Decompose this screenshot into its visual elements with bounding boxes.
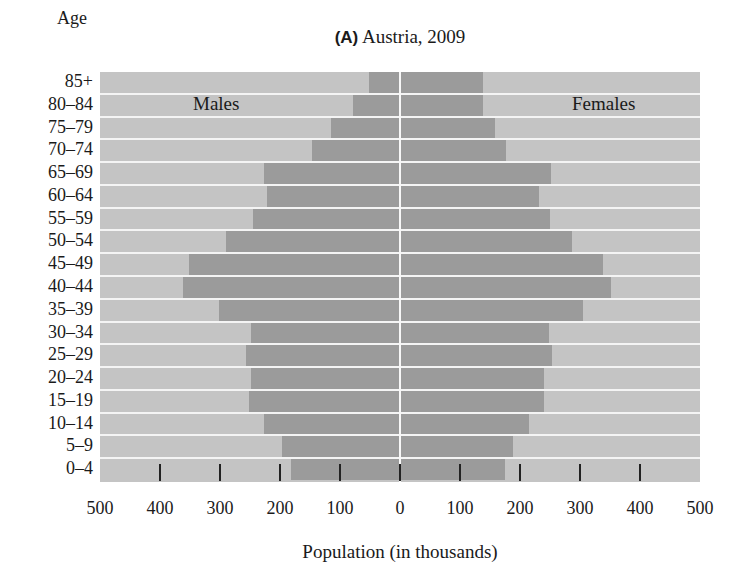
plot-area: Males Females	[100, 72, 700, 482]
x-tick-label: 200	[490, 498, 550, 519]
male-bar	[253, 209, 400, 230]
x-tick-mark	[159, 464, 161, 481]
panel-letter: (A)	[335, 28, 359, 47]
male-bar	[226, 231, 400, 252]
age-group-label: 30–34	[48, 322, 93, 343]
age-group-label: 60–64	[48, 185, 93, 206]
age-group-label: 80–84	[48, 94, 93, 115]
female-bar	[400, 323, 549, 344]
x-tick-label: 200	[250, 498, 310, 519]
x-tick-mark	[339, 464, 341, 481]
male-bar	[291, 459, 400, 480]
female-bar	[400, 436, 513, 457]
female-bar	[400, 391, 544, 412]
male-bar	[183, 277, 400, 298]
female-bar	[400, 163, 551, 184]
female-bar	[400, 459, 505, 480]
male-bar	[282, 436, 400, 457]
male-bar	[251, 323, 400, 344]
age-group-label: 45–49	[48, 253, 93, 274]
age-group-label: 0–4	[66, 458, 93, 479]
x-tick-label: 500	[670, 498, 730, 519]
male-bar	[249, 391, 400, 412]
female-bar	[400, 186, 539, 207]
x-tick-mark	[519, 464, 521, 481]
title-text: Austria, 2009	[362, 26, 465, 47]
x-tick-label: 300	[550, 498, 610, 519]
male-bar	[312, 140, 400, 161]
x-tick-label: 0	[370, 498, 430, 519]
age-group-label: 40–44	[48, 276, 93, 297]
x-tick-label: 100	[430, 498, 490, 519]
age-group-label: 50–54	[48, 230, 93, 251]
age-group-label: 85+	[65, 71, 93, 92]
female-bar	[400, 254, 603, 275]
female-bar	[400, 95, 483, 116]
y-axis-header: Age	[57, 8, 87, 29]
female-bar	[400, 277, 611, 298]
female-bar	[400, 345, 552, 366]
male-bar	[189, 254, 400, 275]
age-group-label: 65–69	[48, 162, 93, 183]
female-bar	[400, 300, 583, 321]
female-bar	[400, 72, 483, 93]
x-axis-label: Population (in thousands)	[0, 541, 738, 563]
x-tick-label: 500	[70, 498, 130, 519]
chart-title: (A) Austria, 2009	[0, 26, 738, 48]
age-group-label: 35–39	[48, 299, 93, 320]
female-bar	[400, 231, 572, 252]
age-group-label: 20–24	[48, 367, 93, 388]
age-group-label: 55–59	[48, 208, 93, 229]
x-tick-label: 400	[130, 498, 190, 519]
x-tick-mark	[279, 464, 281, 481]
age-group-label: 70–74	[48, 139, 93, 160]
age-group-label: 5–9	[66, 435, 93, 456]
male-bar	[331, 118, 400, 139]
female-bar	[400, 368, 544, 389]
x-tick-label: 300	[190, 498, 250, 519]
x-tick-label: 400	[610, 498, 670, 519]
male-bar	[264, 414, 400, 435]
males-label: Males	[193, 93, 239, 115]
male-bar	[264, 163, 400, 184]
age-group-label: 15–19	[48, 390, 93, 411]
age-group-label: 10–14	[48, 413, 93, 434]
center-axis-line	[399, 72, 401, 482]
x-tick-mark	[219, 464, 221, 481]
age-group-label: 25–29	[48, 344, 93, 365]
x-tick-mark	[639, 464, 641, 481]
male-bar	[353, 95, 400, 116]
x-tick-mark	[579, 464, 581, 481]
male-bar	[219, 300, 400, 321]
male-bar	[267, 186, 400, 207]
male-bar	[251, 368, 400, 389]
x-tick-mark	[459, 464, 461, 481]
female-bar	[400, 209, 550, 230]
female-bar	[400, 140, 506, 161]
females-label: Females	[572, 93, 635, 115]
male-bar	[246, 345, 400, 366]
x-tick-label: 100	[310, 498, 370, 519]
male-bar	[369, 72, 400, 93]
female-bar	[400, 414, 529, 435]
x-tick-mark	[399, 464, 401, 481]
age-group-label: 75–79	[48, 117, 93, 138]
female-bar	[400, 118, 495, 139]
